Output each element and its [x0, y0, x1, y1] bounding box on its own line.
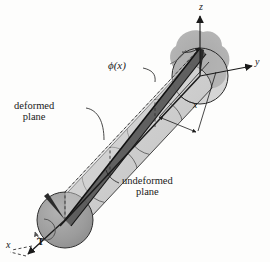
deformed-plane-label: deformed plane	[14, 101, 54, 122]
figure-canvas	[0, 0, 270, 262]
torsion-shaft-figure: z y x x ϕ(x) deformed plane undeformed p…	[0, 0, 270, 262]
y-axis-label: y	[255, 57, 259, 67]
twist-angle-label: ϕ(x)	[108, 60, 126, 71]
undeformed-plane-label-line2: plane	[122, 187, 173, 198]
length-dimension-label: x	[193, 101, 197, 111]
x-axis-label: x	[6, 240, 10, 250]
deformed-plane-label-line2: plane	[14, 112, 54, 123]
undeformed-plane-label: undeformed plane	[122, 176, 173, 197]
z-axis-label: z	[199, 2, 203, 12]
torque-label: T	[37, 236, 44, 247]
